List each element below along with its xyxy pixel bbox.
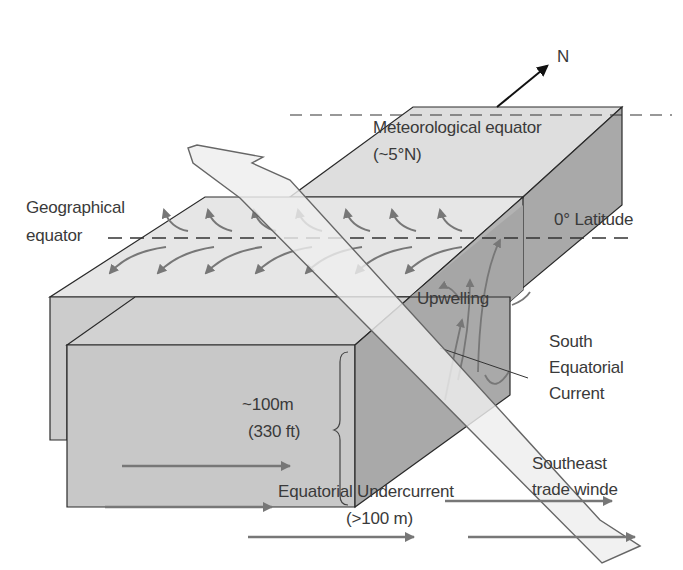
southeast-trade-winds-label-line2: trade winde xyxy=(532,480,618,500)
meteorological-equator-label: Meteorological equator xyxy=(373,118,542,138)
south-equatorial-current-label-line1: South xyxy=(549,332,592,352)
undercurrent-label-line2: (>100 m) xyxy=(346,509,413,529)
south-equatorial-current-label-line3: Current xyxy=(549,384,604,404)
equatorial-upwelling-diagram: N Meteorological equator (~5°N) Geograph… xyxy=(0,0,683,570)
southeast-trade-winds-label-line1: Southeast xyxy=(532,454,607,474)
depth-label-line2: (330 ft) xyxy=(248,422,300,442)
compass-north-label: N xyxy=(557,47,569,67)
meteorological-equator-latitude-label: (~5°N) xyxy=(373,145,422,165)
north-arrow-icon xyxy=(497,66,547,107)
upwelling-label: Upwelling xyxy=(417,289,489,309)
south-equatorial-current-label-line2: Equatorial xyxy=(549,358,624,378)
geographical-equator-label-line2: equator xyxy=(26,226,82,246)
zero-latitude-label: 0° Latitude xyxy=(554,210,633,230)
depth-label-line1: ~100m xyxy=(242,395,293,415)
geographical-equator-label-line1: Geographical xyxy=(26,198,125,218)
undercurrent-label-line1: Equatorial Undercurrent xyxy=(278,482,454,502)
